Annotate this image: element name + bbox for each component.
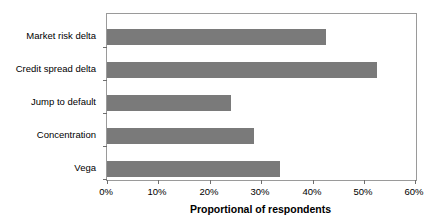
bar-market-risk-delta bbox=[107, 29, 326, 45]
category-label-concentration: Concentration bbox=[0, 130, 96, 140]
x-axis-title: Proportional of respondents bbox=[106, 203, 415, 215]
x-tick-label-20: 20% bbox=[199, 186, 218, 197]
x-tick-label-50: 50% bbox=[353, 186, 372, 197]
x-axis-tick bbox=[415, 180, 416, 184]
x-axis-tick bbox=[313, 180, 314, 184]
x-tick-label-30: 30% bbox=[250, 186, 269, 197]
x-tick-label-0: 0% bbox=[99, 186, 113, 197]
category-label-credit-spread-delta: Credit spread delta bbox=[0, 64, 96, 74]
plot-area bbox=[106, 13, 417, 181]
y-axis-tick bbox=[103, 146, 107, 147]
y-axis-tick bbox=[103, 47, 107, 48]
y-axis-tick bbox=[103, 80, 107, 81]
category-label-vega: Vega bbox=[0, 163, 96, 173]
x-axis-tick-labels: 0% 10% 20% 30% 40% 50% 60% bbox=[106, 186, 415, 200]
category-label-jump-to-default: Jump to default bbox=[0, 97, 96, 107]
x-axis-tick bbox=[210, 180, 211, 184]
bar-concentration bbox=[107, 128, 254, 144]
bar-jump-to-default bbox=[107, 95, 231, 111]
x-tick-label-10: 10% bbox=[147, 186, 166, 197]
x-axis-tick bbox=[107, 180, 108, 184]
x-tick-label-40: 40% bbox=[302, 186, 321, 197]
bar-vega bbox=[107, 161, 280, 177]
x-tick-label-60: 60% bbox=[404, 186, 423, 197]
bar-credit-spread-delta bbox=[107, 62, 377, 78]
plot-inner bbox=[107, 14, 416, 180]
x-axis-tick bbox=[158, 180, 159, 184]
y-axis-tick bbox=[103, 113, 107, 114]
category-axis-labels: Market risk delta Credit spread delta Ju… bbox=[0, 13, 101, 179]
bar-chart: Market risk delta Credit spread delta Ju… bbox=[0, 0, 434, 224]
x-axis-tick bbox=[261, 180, 262, 184]
x-axis-tick bbox=[364, 180, 365, 184]
category-label-market-risk-delta: Market risk delta bbox=[0, 31, 96, 41]
